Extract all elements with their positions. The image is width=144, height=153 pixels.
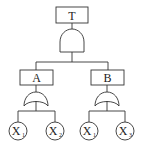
top-event: T	[56, 7, 88, 23]
basic-event-label: X	[12, 124, 21, 138]
top-event-label: T	[68, 9, 76, 23]
event-b-label: B	[103, 71, 111, 85]
basic-event-label: X	[83, 124, 92, 138]
basic-event-label: X	[119, 124, 128, 138]
basic-event-x2: X 2	[46, 122, 64, 140]
and-gate-icon	[60, 29, 84, 52]
basic-event-subscript: 2	[59, 132, 62, 138]
fault-tree-diagram: T A B X 1 X 2 X 1 X	[0, 0, 144, 153]
basic-event-label: X	[49, 124, 58, 138]
basic-event-subscript: 3	[129, 132, 132, 138]
basic-event-x1-right: X 1	[80, 122, 98, 140]
event-b: B	[91, 70, 124, 85]
event-a-label: A	[32, 71, 41, 85]
basic-event-subscript: 1	[93, 132, 96, 138]
basic-event-subscript: 1	[22, 132, 25, 138]
basic-event-x3: X 3	[116, 122, 134, 140]
basic-event-x1-left: X 1	[9, 122, 27, 140]
event-a: A	[20, 70, 53, 85]
